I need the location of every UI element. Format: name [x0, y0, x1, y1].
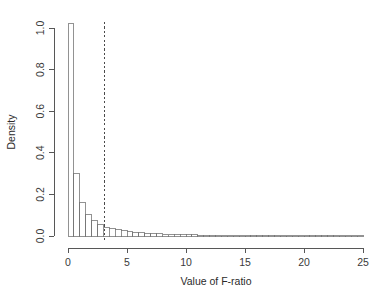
histogram-bar: [280, 235, 286, 236]
y-tick-label: 0.4: [34, 145, 46, 160]
histogram-bar: [115, 230, 121, 236]
histogram-bar: [210, 235, 216, 236]
histogram-bar: [86, 214, 92, 236]
histogram-bar: [157, 234, 163, 236]
histogram-bar: [357, 235, 363, 236]
histogram-bar: [251, 235, 257, 236]
y-tick-label: 0.8: [34, 62, 46, 77]
x-tick-label: 0: [65, 256, 71, 268]
histogram-bar: [275, 235, 281, 236]
histogram-bar: [245, 235, 251, 236]
histogram-bar: [239, 235, 245, 236]
histogram-bar: [339, 235, 345, 236]
y-tick-label: 1.0: [34, 21, 46, 36]
x-tick-label: 15: [239, 256, 251, 268]
histogram-bar: [174, 235, 180, 236]
histogram-bar: [192, 235, 198, 236]
histogram-bar: [151, 234, 157, 237]
histogram-bar: [204, 235, 210, 236]
histogram-bar: [168, 234, 174, 236]
histogram-bar: [322, 235, 328, 236]
plot-background: [0, 0, 388, 297]
histogram-bar: [304, 235, 310, 236]
histogram-bar: [233, 235, 239, 236]
histogram-bar: [162, 234, 168, 236]
density-histogram-plot: 0510152025 0.00.20.40.60.81.0 Value of F…: [0, 0, 388, 297]
histogram-bar: [351, 235, 357, 236]
histogram-bar: [198, 235, 204, 236]
histogram-bar: [98, 225, 104, 236]
y-tick-label: 0.6: [34, 104, 46, 119]
histogram-bar: [345, 235, 351, 236]
histogram-figure: 0510152025 0.00.20.40.60.81.0 Value of F…: [0, 0, 388, 297]
histogram-bar: [263, 235, 269, 236]
x-tick-label: 20: [298, 256, 310, 268]
x-tick-label: 25: [357, 256, 369, 268]
histogram-bar: [68, 24, 74, 236]
histogram-bar: [180, 235, 186, 236]
histogram-bar: [227, 235, 233, 236]
histogram-bar: [133, 232, 139, 236]
histogram-bar: [316, 235, 322, 236]
histogram-bar: [310, 235, 316, 236]
histogram-bar: [127, 232, 133, 236]
histogram-bar: [292, 235, 298, 236]
histogram-bar: [257, 235, 263, 236]
histogram-bar: [269, 235, 275, 236]
histogram-bar: [334, 235, 340, 236]
x-tick-label: 10: [180, 256, 192, 268]
histogram-bar: [139, 233, 145, 236]
histogram-bar: [74, 174, 80, 236]
histogram-bar: [80, 203, 86, 236]
y-tick-label: 0.0: [34, 229, 46, 244]
histogram-bar: [328, 235, 334, 236]
histogram-bar: [109, 229, 115, 236]
x-axis-title: Value of F-ratio: [180, 275, 251, 287]
y-tick-label: 0.2: [34, 187, 46, 202]
histogram-bar: [92, 220, 98, 236]
y-axis-title: Density: [5, 114, 17, 150]
histogram-bar: [186, 235, 192, 236]
histogram-bar: [121, 231, 127, 236]
histogram-bar: [216, 235, 222, 236]
histogram-bar: [221, 235, 227, 236]
x-tick-label: 5: [124, 256, 130, 268]
histogram-bar: [145, 233, 151, 236]
histogram-bar: [286, 235, 292, 236]
histogram-bar: [298, 235, 304, 236]
